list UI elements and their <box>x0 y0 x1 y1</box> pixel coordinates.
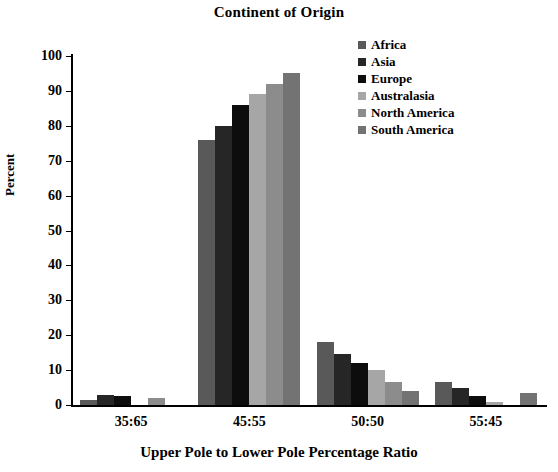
legend-item[interactable]: South America <box>358 121 454 138</box>
bar <box>232 105 249 405</box>
chart-legend: AfricaAsiaEuropeAustralasiaNorth America… <box>358 36 454 138</box>
plot-area: 0102030405060708090100 <box>72 56 545 405</box>
legend-swatch-icon <box>358 58 366 66</box>
chart-title: Continent of Origin <box>0 4 558 21</box>
legend-item-label: Europe <box>371 71 412 87</box>
bar <box>283 73 300 405</box>
y-axis-tick <box>66 300 72 301</box>
legend-item-label: Asia <box>371 54 396 70</box>
legend-item-label: Australasia <box>371 88 435 104</box>
y-axis-tick-label: 80 <box>48 118 62 134</box>
bar <box>249 94 266 405</box>
legend-swatch-icon <box>358 126 366 134</box>
legend-item[interactable]: Africa <box>358 36 454 53</box>
y-axis-tick-label: 50 <box>48 223 62 239</box>
x-axis-tick-label: 55:45 <box>470 414 503 430</box>
x-axis-tick-label: 45:55 <box>233 414 266 430</box>
bar <box>266 84 283 405</box>
bar-group <box>198 56 300 405</box>
legend-item[interactable]: Asia <box>358 53 454 70</box>
legend-swatch-icon <box>358 75 366 83</box>
y-axis-tick <box>66 405 72 406</box>
bar <box>368 370 385 405</box>
bar <box>486 402 503 405</box>
y-axis-tick <box>66 56 72 57</box>
y-axis-tick-label: 10 <box>48 362 62 378</box>
bar <box>80 400 97 405</box>
y-axis-tick-label: 90 <box>48 83 62 99</box>
y-axis-title: Percent <box>2 154 18 196</box>
legend-item-label: North America <box>371 105 454 121</box>
y-axis-tick-label: 70 <box>48 153 62 169</box>
bar <box>215 126 232 405</box>
y-axis-tick <box>66 126 72 127</box>
legend-item-label: Africa <box>371 37 406 53</box>
legend-item[interactable]: Australasia <box>358 87 454 104</box>
y-axis-tick <box>66 335 72 336</box>
y-axis-tick <box>66 161 72 162</box>
y-axis-tick <box>66 231 72 232</box>
bar <box>351 363 368 405</box>
legend-swatch-icon <box>358 92 366 100</box>
y-axis-tick <box>66 265 72 266</box>
y-axis-tick <box>66 196 72 197</box>
bar <box>317 342 334 405</box>
bar <box>469 396 486 405</box>
legend-swatch-icon <box>358 109 366 117</box>
bar <box>452 388 469 405</box>
x-axis-line <box>71 405 547 407</box>
bar <box>385 382 402 405</box>
bar <box>114 396 131 405</box>
bar-group <box>80 56 182 405</box>
x-axis-title: Upper Pole to Lower Pole Percentage Rati… <box>0 444 558 461</box>
x-axis-tick-label: 35:65 <box>115 414 148 430</box>
y-axis-tick-label: 60 <box>48 188 62 204</box>
y-axis-tick <box>66 370 72 371</box>
bar <box>435 382 452 405</box>
legend-item[interactable]: Europe <box>358 70 454 87</box>
bar <box>334 354 351 405</box>
y-axis-tick-label: 40 <box>48 257 62 273</box>
bar <box>148 398 165 405</box>
bar <box>97 395 114 405</box>
y-axis-tick-label: 30 <box>48 292 62 308</box>
y-axis-tick-label: 0 <box>55 397 62 413</box>
bar-chart-figure: Continent of Origin Percent 010203040506… <box>0 0 558 472</box>
y-axis-tick-label: 20 <box>48 327 62 343</box>
bar <box>198 140 215 405</box>
legend-swatch-icon <box>358 41 366 49</box>
x-axis-tick-label: 50:50 <box>351 414 384 430</box>
y-axis-tick-label: 100 <box>41 48 62 64</box>
y-axis-tick <box>66 91 72 92</box>
bar <box>520 393 537 405</box>
legend-item[interactable]: North America <box>358 104 454 121</box>
bar <box>402 391 419 405</box>
legend-item-label: South America <box>371 122 454 138</box>
